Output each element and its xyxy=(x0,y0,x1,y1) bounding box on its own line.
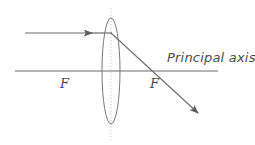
focal-point-label-left: F xyxy=(60,77,69,90)
diagram-canvas xyxy=(0,0,255,145)
principal-axis-label: Principal axis xyxy=(167,51,255,64)
lens-ray-diagram: Principal axis F F xyxy=(0,0,255,145)
focal-point-label-right: F xyxy=(150,77,159,90)
refracted-ray xyxy=(111,33,198,113)
